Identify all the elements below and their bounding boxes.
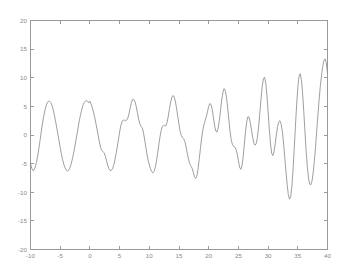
y-tick-label: -5 — [21, 160, 27, 167]
y-tick-label: -20 — [18, 246, 28, 253]
x-tick-label: -5 — [57, 252, 63, 259]
x-tick-label: 25 — [235, 252, 242, 259]
y-tick-label: 10 — [20, 74, 27, 81]
x-tick-label: -10 — [26, 252, 36, 259]
x-tick-label: 0 — [88, 252, 92, 259]
y-tick-label: -15 — [18, 217, 28, 224]
x-tick-label: 35 — [294, 252, 301, 259]
x-tick-label: 30 — [265, 252, 272, 259]
plot-canvas: -10-50510152025303540 -20-15-10-50510152… — [0, 0, 344, 277]
y-tick-label: 15 — [20, 45, 27, 52]
x-tick-label: 20 — [205, 252, 212, 259]
y-tick-label: 5 — [24, 103, 28, 110]
x-tick-label: 40 — [324, 252, 331, 259]
x-tick-label: 10 — [146, 252, 153, 259]
figure-background — [0, 0, 344, 277]
figure-container: -10-50510152025303540 -20-15-10-50510152… — [0, 0, 344, 277]
x-tick-label: 15 — [176, 252, 183, 259]
x-tick-label: 5 — [118, 252, 122, 259]
y-tick-label: -10 — [18, 189, 28, 196]
y-tick-label: 20 — [20, 17, 27, 24]
y-tick-label: 0 — [24, 131, 28, 138]
